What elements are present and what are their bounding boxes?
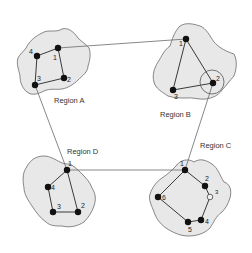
node-label-d4: 4: [51, 184, 55, 191]
node-a4: [34, 53, 40, 59]
node-label-c6: 6: [162, 194, 166, 201]
node-c4: [198, 217, 204, 223]
node-a3: [32, 82, 38, 88]
region-a-area: [17, 29, 90, 95]
network-diagram: 1 2 3 4 1 2 3 1 2 3 4 5 6 1 2 3 4 Region…: [0, 0, 252, 253]
node-label-d2: 2: [81, 202, 85, 209]
region-label-a: Region A: [54, 96, 84, 105]
node-b1: [183, 36, 189, 42]
region-label-d: Region D: [67, 147, 99, 156]
node-label-b2: 2: [216, 75, 220, 82]
node-label-c1: 1: [180, 160, 184, 167]
node-label-c5: 5: [188, 226, 192, 233]
node-label-d3: 3: [57, 203, 61, 210]
node-label-b3: 3: [174, 93, 178, 100]
node-label-b1: 1: [179, 40, 183, 47]
region-d-area: [23, 156, 95, 227]
node-label-a1: 1: [53, 54, 57, 61]
node-c5: [185, 219, 191, 225]
region-b-area: [153, 24, 236, 100]
node-a1: [55, 45, 61, 51]
region-label-c: Region C: [200, 141, 232, 150]
node-c6: [155, 194, 161, 200]
node-label-a2: 2: [67, 76, 71, 83]
region-label-b: Region B: [160, 110, 191, 119]
node-label-a4: 4: [29, 48, 33, 55]
node-d2: [75, 209, 81, 215]
node-d3: [50, 209, 56, 215]
node-label-c4: 4: [205, 218, 209, 225]
node-label-c2: 2: [205, 175, 209, 182]
node-c2: [202, 183, 208, 189]
node-c3: [207, 194, 213, 200]
node-c1: [182, 167, 188, 173]
node-d1: [64, 167, 70, 173]
node-label-a3: 3: [37, 75, 41, 82]
node-label-d1: 1: [68, 160, 72, 167]
